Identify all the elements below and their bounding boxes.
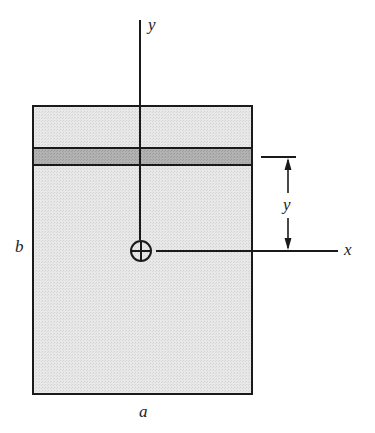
y-axis-label: y — [148, 16, 156, 33]
cross-section-diagram — [0, 0, 375, 433]
x-axis-label: x — [344, 241, 352, 258]
centroid-icon — [131, 241, 151, 261]
strip-distance-label: y — [283, 196, 291, 213]
differential-strip — [33, 148, 252, 165]
width-label-a: a — [139, 403, 148, 420]
arrow-down-icon — [285, 238, 292, 250]
height-label-b: b — [15, 238, 24, 255]
arrow-up-icon — [285, 158, 292, 170]
